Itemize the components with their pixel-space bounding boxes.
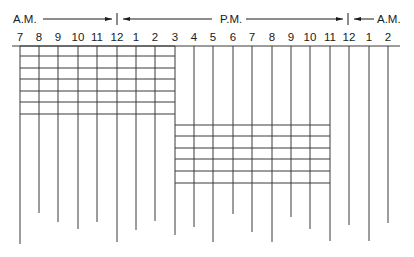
hour-label: 10 (304, 31, 317, 43)
hour-label: 2 (385, 31, 391, 43)
hour-label: 7 (249, 31, 255, 43)
hour-label: 12 (111, 31, 124, 43)
hour-label: 7 (17, 31, 23, 43)
hour-label: 8 (269, 31, 275, 43)
hour-label: 11 (91, 31, 103, 43)
hour-label: 12 (343, 31, 356, 43)
pm-label: P.M. (220, 13, 242, 25)
am-pm-time-grid-diagram: A.M. P.M. A.M. 7891011121234567891011121… (0, 0, 414, 257)
hour-label: 9 (288, 31, 294, 43)
hour-label: 10 (72, 31, 85, 43)
hour-label: 2 (152, 31, 158, 43)
hour-label: 3 (172, 31, 178, 43)
hour-label: 1 (133, 31, 139, 43)
hour-label: 6 (230, 31, 236, 43)
hour-label: 8 (36, 31, 42, 43)
am-start-label: A.M. (13, 13, 37, 25)
hour-labels: 78910111212345678910111212 (17, 31, 391, 43)
hour-label: 9 (55, 31, 61, 43)
hour-label: 4 (191, 31, 198, 43)
hour-lines (20, 46, 388, 244)
hour-label: 11 (324, 31, 336, 43)
hour-label: 1 (366, 31, 372, 43)
am-end-label: A.M. (377, 13, 401, 25)
period-header: A.M. P.M. A.M. (13, 13, 401, 25)
hour-label: 5 (210, 31, 216, 43)
